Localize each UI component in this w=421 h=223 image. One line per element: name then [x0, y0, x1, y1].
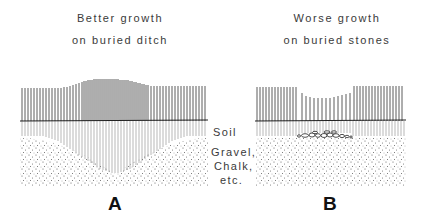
label-chalk: Chalk, — [214, 160, 254, 173]
label-gravel: Gravel, — [211, 146, 256, 159]
panel-b-subsoil — [255, 138, 406, 186]
panel-b — [255, 86, 406, 186]
panel-b-crops — [257, 86, 402, 121]
label-etc: etc. — [220, 174, 243, 187]
panel-a-crops — [22, 79, 205, 121]
cropmark-diagram — [0, 0, 421, 223]
panel-letter-a: A — [108, 193, 122, 215]
panel-a — [20, 79, 208, 186]
panel-a-ground-line — [20, 120, 208, 121]
label-soil: Soil — [213, 126, 237, 139]
panel-letter-b: B — [323, 193, 337, 215]
